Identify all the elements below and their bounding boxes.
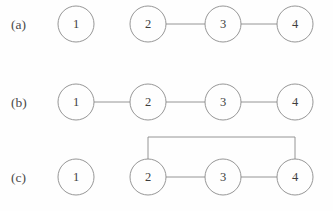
panel-a-label: (a) (11, 17, 26, 32)
node-c-1-label: 1 (73, 170, 79, 184)
node-a-4: 4 (277, 6, 313, 42)
figure-container: (a) 1 2 3 4 (0, 0, 333, 211)
panel-c-label: (c) (11, 170, 26, 185)
node-c-1: 1 (58, 159, 94, 195)
node-b-2-label: 2 (145, 95, 151, 109)
panel-a: (a) 1 2 3 4 (11, 6, 313, 42)
panel-b: (b) 1 2 3 (11, 84, 313, 120)
node-a-2-label: 2 (145, 17, 151, 31)
node-b-1-label: 1 (73, 95, 79, 109)
node-c-4: 4 (277, 159, 313, 195)
node-a-1: 1 (58, 6, 94, 42)
node-b-3: 3 (205, 84, 241, 120)
panel-c: (c) 1 2 3 (11, 137, 313, 195)
graph-diagram-svg: (a) 1 2 3 4 (0, 0, 333, 211)
node-b-2: 2 (130, 84, 166, 120)
node-b-4-label: 4 (292, 95, 299, 109)
panel-b-label: (b) (11, 95, 27, 110)
node-c-3-label: 3 (220, 170, 226, 184)
node-c-3: 3 (205, 159, 241, 195)
node-c-2-label: 2 (145, 170, 151, 184)
node-a-2: 2 (130, 6, 166, 42)
edge-c-2-4-bracket (148, 137, 295, 159)
node-c-4-label: 4 (292, 170, 299, 184)
node-b-4: 4 (277, 84, 313, 120)
node-a-1-label: 1 (73, 17, 79, 31)
node-b-3-label: 3 (220, 95, 226, 109)
node-c-2: 2 (130, 159, 166, 195)
node-a-3-label: 3 (220, 17, 226, 31)
node-b-1: 1 (58, 84, 94, 120)
node-a-3: 3 (205, 6, 241, 42)
node-a-4-label: 4 (292, 17, 299, 31)
